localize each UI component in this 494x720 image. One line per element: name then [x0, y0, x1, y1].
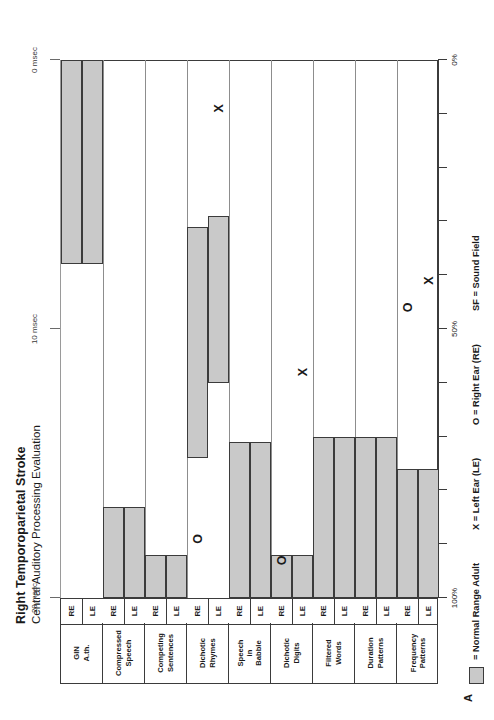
percent-tick — [438, 328, 447, 329]
category-label-line: Dichotic — [282, 638, 291, 668]
category-label-line: Compressed — [114, 630, 123, 676]
category-label-line: Patterns — [418, 634, 427, 672]
category-label: SpeechinBabble — [229, 623, 271, 683]
normal-range-bar — [103, 507, 124, 598]
percent-tick — [438, 597, 447, 598]
percent-axis-line — [438, 60, 439, 598]
percent-tick — [438, 59, 447, 60]
ear-label-left: LE — [208, 598, 229, 624]
category-label-line: Competing — [156, 633, 165, 673]
category-label-line: Speech — [236, 640, 245, 667]
ear-label-left: LE — [124, 598, 145, 624]
legend: = Normal Range Adult X = Left Ear (LE) O… — [466, 235, 486, 684]
category-label-line: A.th. — [82, 645, 91, 662]
percent-tick — [438, 113, 447, 114]
ear-label-left: LE — [250, 598, 271, 624]
percent-tick — [438, 382, 447, 383]
category-label: GINA.th. — [61, 623, 103, 683]
normal-range-bar — [313, 437, 334, 598]
ear-divider — [82, 598, 83, 624]
category-label-column: GINA.th.CompressedSpeechCompetingSentenc… — [60, 624, 438, 684]
category-label: FilteredWords — [313, 623, 355, 683]
normal-range-bar — [208, 216, 229, 383]
category-label-line: Babble — [254, 640, 263, 667]
category-label: DichoticRhymes — [187, 623, 229, 683]
ear-label-left: LE — [418, 598, 439, 624]
msec-axis-label: 0 msec — [30, 47, 39, 73]
percent-axis-label: 0% — [450, 54, 459, 66]
category-label: DichoticDigits — [271, 623, 313, 683]
percent-axis-label: 100% — [450, 588, 459, 608]
ear-label-right: RE — [145, 598, 166, 624]
category-label-line: GIN — [72, 645, 81, 662]
ear-label-column: RELERELERELERELERELERELERELERELERELE — [60, 598, 438, 624]
left-ear-marker: X — [296, 368, 309, 376]
ear-label-right: RE — [229, 598, 250, 624]
normal-range-bar — [61, 60, 82, 264]
ear-divider — [166, 598, 167, 624]
ear-label-right: RE — [187, 598, 208, 624]
normal-range-bar — [376, 437, 397, 598]
category-label-line: Duration — [366, 637, 375, 668]
ear-label-right: RE — [313, 598, 334, 624]
legend-left-ear-label: X = Left Ear (LE) — [471, 458, 481, 530]
msec-tick — [50, 328, 60, 329]
percent-tick — [438, 489, 447, 490]
ear-label-left: LE — [166, 598, 187, 624]
category-label-line: Words — [334, 639, 343, 666]
category-label: FrequencyPatterns — [397, 623, 439, 683]
right-ear-marker: O — [191, 534, 204, 544]
normal-range-bar — [166, 555, 187, 598]
ear-label-left: LE — [292, 598, 313, 624]
ear-divider — [250, 598, 251, 624]
normal-range-bar — [229, 442, 250, 598]
normal-range-bar — [334, 437, 355, 598]
left-ear-marker: X — [422, 276, 435, 284]
ear-label-left: LE — [376, 598, 397, 624]
ear-divider — [418, 598, 419, 624]
ear-divider — [124, 598, 125, 624]
category-label-line: in — [245, 640, 254, 667]
category-label-line: Sentences — [166, 633, 175, 673]
ear-label-right: RE — [397, 598, 418, 624]
ear-divider — [334, 598, 335, 624]
normal-range-swatch — [469, 667, 484, 684]
chart-canvas: Right Temporoparietal Stroke Central Aud… — [0, 0, 494, 720]
msec-axis-label: 20 msec — [30, 583, 39, 613]
percent-tick — [438, 436, 447, 437]
ear-divider — [208, 598, 209, 624]
legend-right-ear-label: O = Right Ear (RE) — [471, 344, 481, 425]
ear-divider — [292, 598, 293, 624]
normal-range-bar — [124, 507, 145, 598]
panel-label: A — [462, 694, 474, 702]
ear-divider — [376, 598, 377, 624]
ear-label-left: LE — [82, 598, 103, 624]
category-label: DurationPatterns — [355, 623, 397, 683]
category-label-line: Frequency — [409, 634, 418, 672]
normal-range-bar — [187, 227, 208, 458]
category-label: CompetingSentences — [145, 623, 187, 683]
ear-label-left: LE — [334, 598, 355, 624]
normal-range-bar — [82, 60, 103, 264]
row-divider — [145, 60, 146, 598]
category-label-line: Filtered — [324, 639, 333, 666]
percent-tick — [438, 220, 447, 221]
right-ear-marker: O — [401, 303, 414, 313]
normal-range-bar — [250, 442, 271, 598]
category-label-line: Rhymes — [208, 638, 217, 668]
normal-range-bar — [397, 469, 418, 598]
plot-area: OXOXOX — [60, 60, 438, 598]
msec-tick — [50, 59, 60, 60]
left-ear-marker: X — [212, 104, 225, 112]
normal-range-bar — [292, 555, 313, 598]
legend-sound-field-label: SF = Sound Field — [471, 235, 481, 311]
category-label-line: Dichotic — [198, 638, 207, 668]
right-ear-marker: O — [275, 555, 288, 565]
normal-range-bar — [355, 437, 376, 598]
normal-range-bar — [145, 555, 166, 598]
row-divider — [271, 60, 272, 598]
category-label-line: Patterns — [376, 637, 385, 668]
category-label-line: Digits — [292, 638, 301, 668]
ear-label-right: RE — [271, 598, 292, 624]
percent-tick — [438, 543, 447, 544]
